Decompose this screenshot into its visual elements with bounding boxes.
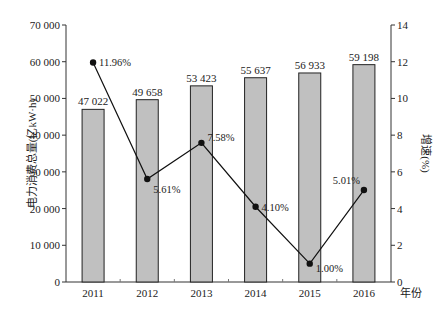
right-tick-label: 4	[397, 203, 403, 215]
right-tick-label: 10	[397, 92, 409, 104]
x-tick-label: 2016	[353, 287, 376, 299]
x-tick-label: 2015	[299, 287, 322, 299]
left-tick-label: 0	[55, 276, 61, 288]
x-tick-label: 2012	[136, 287, 158, 299]
growth-point-2012	[144, 176, 150, 182]
growth-value-label: 11.96%	[99, 57, 131, 68]
bar-value-label: 56 933	[295, 59, 326, 71]
bar-2013	[190, 86, 212, 282]
bar-value-label: 53 423	[186, 72, 217, 84]
growth-value-label: 7.58%	[207, 132, 234, 143]
growth-point-2015	[307, 260, 313, 266]
bar-2016	[353, 65, 375, 282]
right-tick-label: 12	[397, 56, 408, 68]
bar-2014	[245, 78, 267, 282]
bar-value-label: 49 658	[132, 86, 163, 98]
left-tick-label: 60 000	[30, 56, 61, 68]
right-tick-label: 6	[397, 166, 403, 178]
x-tick-label: 2013	[190, 287, 213, 299]
bar-value-label: 55 637	[240, 64, 271, 76]
bar-value-label: 47 022	[78, 95, 108, 107]
combo-chart: 010 00020 00030 00040 00050 00060 00070 …	[0, 0, 437, 313]
right-axis-title: 增速(%)	[419, 134, 433, 173]
left-axis-title: 电力消费总量(亿kW·h)	[25, 98, 39, 208]
right-tick-label: 14	[397, 19, 409, 31]
right-tick-label: 2	[397, 239, 403, 251]
growth-point-2016	[361, 187, 367, 193]
chart-container: 010 00020 00030 00040 00050 00060 00070 …	[0, 0, 437, 313]
growth-point-2013	[198, 140, 204, 146]
left-tick-label: 10 000	[30, 239, 61, 251]
bar-value-label: 59 198	[349, 51, 380, 63]
growth-value-label: 5.01%	[333, 175, 360, 186]
growth-value-label: 5.61%	[153, 184, 180, 195]
x-tick-label: 2011	[82, 287, 104, 299]
left-tick-label: 70 000	[30, 19, 61, 31]
x-tick-label: 2014	[245, 287, 268, 299]
bar-2015	[299, 73, 321, 282]
growth-point-2014	[252, 204, 258, 210]
x-axis-label: 年份	[400, 286, 422, 299]
bar-2011	[82, 109, 104, 282]
right-tick-label: 8	[397, 129, 403, 141]
growth-value-label: 4.10%	[262, 202, 289, 213]
growth-point-2011	[90, 59, 96, 65]
growth-value-label: 1.00%	[316, 263, 343, 274]
